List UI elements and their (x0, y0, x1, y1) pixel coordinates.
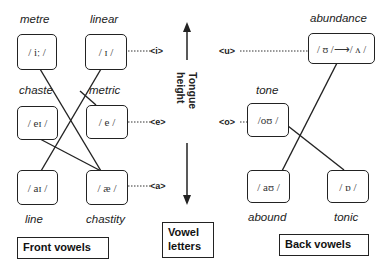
axis-label-tongue-height: Tongue height (180, 72, 194, 142)
word-chaste: chaste (19, 84, 53, 96)
word-chastity: chastity (86, 213, 125, 225)
word-line: line (25, 213, 43, 225)
vowel-box-o-short: / ɒ / (327, 170, 369, 203)
word-abundance: abundance (310, 12, 367, 24)
front-vowels-label: Front vowels (17, 237, 109, 259)
vowel-box-ei: / eɪ / (17, 106, 58, 140)
arrow-down-icon (183, 195, 191, 205)
vowel-box-ou: /oʊ / (247, 103, 289, 137)
word-abound: abound (248, 211, 286, 223)
vowel-diagram: metre linear chaste metric line chastity… (0, 0, 387, 271)
word-tone: tone (256, 84, 278, 96)
word-linear: linear (90, 13, 118, 25)
vowel-box-au: / aʊ / (247, 170, 290, 203)
letter-u: <u> (219, 46, 235, 56)
word-tonic: tonic (334, 211, 358, 223)
letter-a: <a> (150, 181, 166, 191)
arrow-up-icon (183, 22, 191, 32)
letter-e: <e> (150, 117, 166, 127)
back-vowels-label: Back vowels (279, 234, 369, 256)
word-metric: metric (89, 84, 120, 96)
vowel-box-ae: / æ / (86, 170, 128, 205)
vowel-letters-line2: letters (168, 239, 208, 253)
vowel-letters-label: Vowel letters (162, 222, 214, 258)
vowel-box-i-short: / ɪ / (85, 34, 127, 70)
vowel-box-i-long: / iː / (17, 34, 57, 70)
vowel-box-ai: / aɪ / (17, 170, 58, 205)
letter-i: <i> (150, 46, 163, 56)
vowel-box-e: / e / (86, 105, 128, 139)
word-metre: metre (20, 13, 49, 25)
letter-o: <o> (219, 117, 235, 127)
vowel-box-u-to-v: / ʊ /⟶/ ʌ / (308, 33, 375, 64)
vowel-letters-line1: Vowel (168, 225, 208, 239)
